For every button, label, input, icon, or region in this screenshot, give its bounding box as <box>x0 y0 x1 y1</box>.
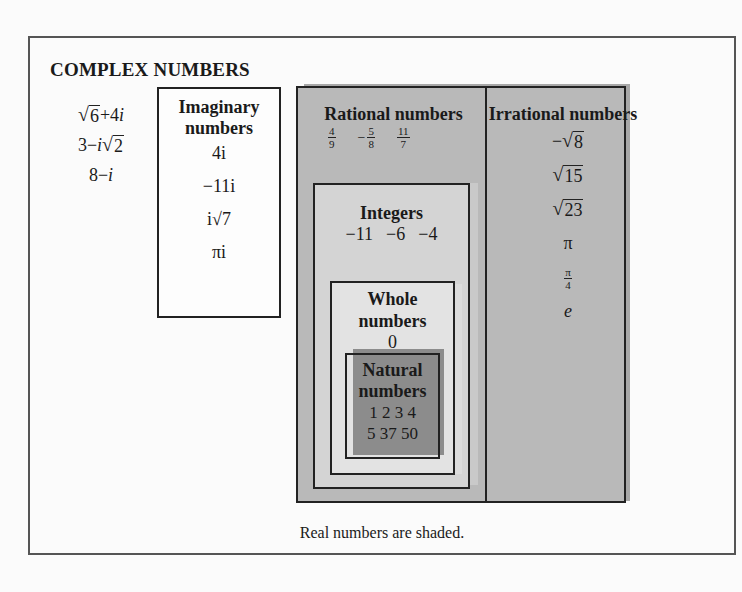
complex-numbers-title: COMPLEX NUMBERS <box>50 59 250 81</box>
irrational-values: −√8 √15 √23 π π4 e <box>488 124 648 328</box>
rational-fractions: 49 −58 117 <box>328 125 410 150</box>
imaginary-numbers-title: Imaginary numbers <box>159 97 279 139</box>
complex-example-3: 8−i <box>56 160 146 190</box>
irrational-value: √23 <box>488 192 648 226</box>
irrational-value: √15 <box>488 158 648 192</box>
imaginary-value: πi <box>159 236 279 269</box>
whole-numbers-title: Whole numbers <box>332 288 453 332</box>
imaginary-values: 4i −11i i√7 πi <box>159 137 279 269</box>
imaginary-value: 4i <box>159 137 279 170</box>
natural-numbers-region: Natural numbers 1 2 3 4 5 37 50 <box>345 353 440 459</box>
irrational-value: e <box>488 294 648 328</box>
complex-example-2: 3−i√2 <box>56 130 146 160</box>
imaginary-value: i√7 <box>159 203 279 236</box>
irrational-value: −√8 <box>488 124 648 158</box>
natural-numbers-title: Natural numbers <box>347 360 438 402</box>
fraction: 49 <box>328 125 336 150</box>
complex-examples: √6+4i 3−i√2 8−i <box>56 100 146 190</box>
irrational-value: π <box>488 226 648 260</box>
diagram-caption: Real numbers are shaded. <box>28 524 736 542</box>
integers-values: −11 −6 −4 <box>315 224 468 245</box>
integers-title: Integers <box>315 203 468 224</box>
irrational-numbers-title: Irrational numbers <box>488 104 638 125</box>
rational-numbers-title: Rational numbers <box>306 104 481 125</box>
fraction: 117 <box>397 125 410 150</box>
imaginary-numbers-box: Imaginary numbers 4i −11i i√7 πi <box>157 87 281 318</box>
complex-example-1: √6+4i <box>56 100 146 130</box>
rational-irrational-divider <box>485 86 487 503</box>
imaginary-value: −11i <box>159 170 279 203</box>
fraction: −58 <box>358 125 375 150</box>
natural-numbers-values: 1 2 3 4 5 37 50 <box>347 402 438 444</box>
irrational-value: π4 <box>488 260 648 294</box>
